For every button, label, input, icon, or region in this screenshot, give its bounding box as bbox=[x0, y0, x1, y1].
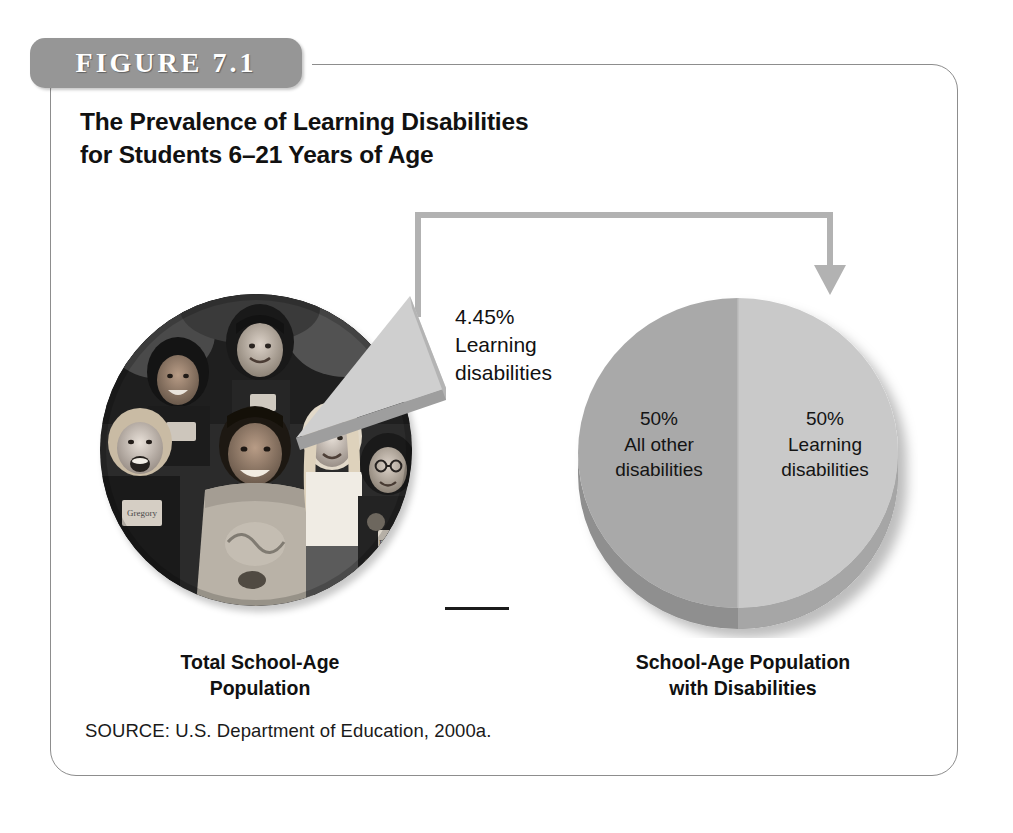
source-note: SOURCE: U.S. Department of Education, 20… bbox=[85, 720, 491, 742]
figure-title: The Prevalence of Learning Disabilities … bbox=[80, 106, 528, 171]
learning-disabilities-callout: 4.45% Learning disabilities bbox=[455, 303, 552, 387]
right-chart-caption: School-Age Population with Disabilities bbox=[608, 650, 878, 701]
figure-number-label: FIGURE 7.1 bbox=[76, 47, 257, 79]
callout-leader-line bbox=[445, 607, 509, 610]
svg-text:Elizabeth: Elizabeth bbox=[379, 538, 412, 548]
right-pie-chart: 50% All other disabilities 50% Learning … bbox=[568, 288, 918, 638]
exploded-pie-wedge bbox=[296, 288, 446, 468]
pie-slice-label-all-other-disabilities: 50% All other disabilities bbox=[584, 406, 734, 483]
figure-number-tab: FIGURE 7.1 bbox=[30, 38, 302, 88]
left-pie-chart: Gregory bbox=[96, 288, 432, 638]
pie-slice-label-learning-disabilities: 50% Learning disabilities bbox=[750, 406, 900, 483]
left-chart-caption: Total School-Age Population bbox=[130, 650, 390, 701]
svg-text:Gregory: Gregory bbox=[127, 508, 157, 518]
